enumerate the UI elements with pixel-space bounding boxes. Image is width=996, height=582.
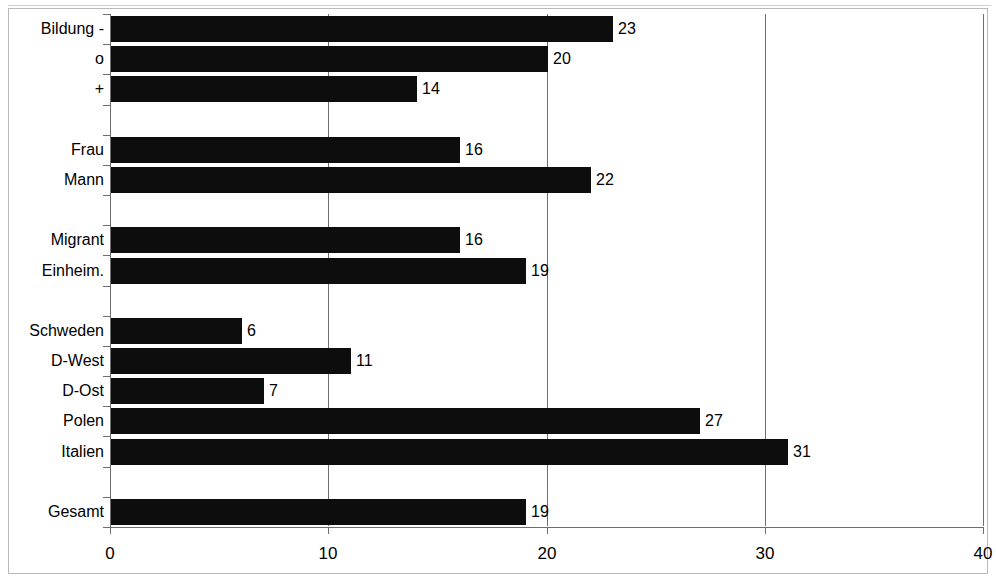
bar-value-label: 16 xyxy=(465,232,483,248)
bar-value-label: 23 xyxy=(618,21,636,37)
y-axis-tick xyxy=(103,376,111,377)
bar-value-label: 22 xyxy=(596,172,614,188)
bar-value-label: 6 xyxy=(247,323,256,339)
bar xyxy=(111,258,526,284)
bar xyxy=(111,378,264,404)
y-axis-tick xyxy=(103,135,111,136)
bar-value-label: 31 xyxy=(793,444,811,460)
bar xyxy=(111,318,242,344)
bar xyxy=(111,348,351,374)
category-label: D-Ost xyxy=(0,383,104,399)
category-label: Polen xyxy=(0,413,104,429)
gridline-40 xyxy=(983,14,984,526)
bar-value-label: 14 xyxy=(422,81,440,97)
x-axis-tick xyxy=(983,527,984,534)
category-label: Gesamt xyxy=(0,504,104,520)
bar xyxy=(111,16,613,42)
category-label: Mann xyxy=(0,172,104,188)
x-axis-tick-label: 0 xyxy=(105,545,114,562)
bar-value-label: 19 xyxy=(531,263,549,279)
x-axis-tick xyxy=(328,527,329,534)
y-axis-tick xyxy=(103,44,111,45)
plot-area: 232014162216196117273119 xyxy=(110,14,983,526)
figure-top-rule xyxy=(8,5,991,6)
x-axis-tick-label: 20 xyxy=(538,545,557,562)
bar-value-label: 7 xyxy=(269,383,278,399)
y-axis-tick xyxy=(103,436,111,437)
category-label: o xyxy=(0,51,104,67)
y-axis-tick xyxy=(103,165,111,166)
category-label: D-West xyxy=(0,353,104,369)
y-axis-tick xyxy=(103,346,111,347)
y-axis-tick xyxy=(103,316,111,317)
category-label: Migrant xyxy=(0,232,104,248)
bar-value-label: 16 xyxy=(465,142,483,158)
y-axis-tick xyxy=(103,497,111,498)
bar xyxy=(111,408,700,434)
category-label: Schweden xyxy=(0,323,104,339)
bar-value-label: 27 xyxy=(705,413,723,429)
category-label: Frau xyxy=(0,142,104,158)
category-label: Bildung - xyxy=(0,21,104,37)
category-label: Italien xyxy=(0,444,104,460)
y-axis-tick xyxy=(103,255,111,256)
category-label: Einheim. xyxy=(0,263,104,279)
bar xyxy=(111,167,591,193)
y-axis-tick xyxy=(103,14,111,15)
y-axis-tick xyxy=(103,74,111,75)
bar xyxy=(111,439,788,465)
bar xyxy=(111,46,548,72)
x-axis-tick xyxy=(547,527,548,534)
x-axis-tick-label: 10 xyxy=(319,545,338,562)
bar-value-label: 20 xyxy=(553,51,571,67)
y-axis-tick xyxy=(103,527,111,528)
y-axis-tick xyxy=(103,195,111,196)
x-axis-tick-label: 30 xyxy=(756,545,775,562)
y-axis-tick xyxy=(103,225,111,226)
y-axis-tick xyxy=(103,105,111,106)
bar xyxy=(111,227,460,253)
chart-page: Bildung -o+FrauMannMigrantEinheim.Schwed… xyxy=(0,0,996,582)
y-axis-tick xyxy=(103,406,111,407)
bar xyxy=(111,76,417,102)
bar xyxy=(111,137,460,163)
x-axis-tick xyxy=(110,527,111,534)
y-axis-labels: Bildung -o+FrauMannMigrantEinheim.Schwed… xyxy=(0,0,104,582)
bar-value-label: 11 xyxy=(356,353,373,369)
category-label: + xyxy=(0,81,104,97)
y-axis-tick xyxy=(103,467,111,468)
bar xyxy=(111,499,526,525)
x-axis-tick-label: 40 xyxy=(974,545,993,562)
y-axis-tick xyxy=(103,286,111,287)
x-axis-tick xyxy=(765,527,766,534)
bar-value-label: 19 xyxy=(531,504,549,520)
